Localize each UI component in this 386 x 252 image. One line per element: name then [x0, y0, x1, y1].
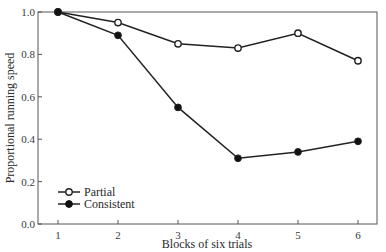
y-tick-label: 1.0 [21, 6, 35, 18]
legend: Partial Consistent [58, 185, 135, 211]
x-axis-label: Blocks of six trials [162, 237, 253, 251]
open-circle-marker-icon [115, 19, 121, 25]
series-line-consistent [58, 12, 358, 158]
y-tick-label: 0.6 [21, 91, 35, 103]
open-circle-marker-icon [235, 45, 241, 51]
x-tick-label: 2 [115, 229, 121, 241]
line-chart: 0.00.20.40.60.81.0 123456 Blocks of six … [0, 0, 386, 252]
filled-circle-marker-icon [175, 104, 182, 111]
y-tick-label: 0.2 [21, 176, 35, 188]
filled-circle-marker-icon [295, 149, 302, 156]
y-tick-label: 0.8 [21, 48, 35, 60]
series-layer [55, 9, 362, 162]
open-circle-marker-icon [66, 189, 72, 195]
x-tick-label: 6 [355, 229, 361, 241]
filled-circle-marker-icon [355, 138, 362, 145]
open-circle-marker-icon [295, 30, 301, 36]
filled-circle-marker-icon [66, 201, 73, 208]
y-tick-label: 0.4 [21, 133, 35, 145]
filled-circle-marker-icon [235, 155, 242, 162]
open-circle-marker-icon [355, 58, 361, 64]
series-line-partial [58, 12, 358, 61]
y-axis-label: Proportional running speed [3, 53, 17, 184]
y-tick-label: 0.0 [21, 218, 35, 230]
legend-label-consistent: Consistent [84, 197, 135, 211]
filled-circle-marker-icon [115, 32, 122, 39]
y-axis-ticks: 0.00.20.40.60.81.0 [21, 6, 42, 230]
open-circle-marker-icon [175, 41, 181, 47]
legend-item-consistent: Consistent [58, 197, 135, 211]
x-tick-label: 1 [55, 229, 61, 241]
filled-circle-marker-icon [55, 9, 62, 16]
x-tick-label: 5 [295, 229, 301, 241]
